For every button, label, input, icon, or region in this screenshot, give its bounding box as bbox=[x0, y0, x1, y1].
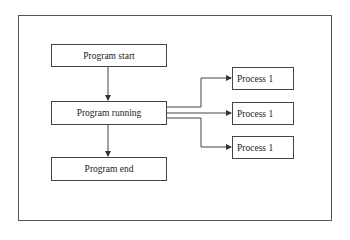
node-label: Program start bbox=[83, 51, 134, 61]
node-process-c: Process 1 bbox=[232, 136, 294, 159]
arrow-running-to-process-c bbox=[166, 118, 231, 147]
node-label: Process 1 bbox=[237, 109, 273, 119]
node-process-b: Process 1 bbox=[232, 102, 294, 125]
arrow-running-to-process-a bbox=[166, 78, 231, 107]
node-program-start: Program start bbox=[51, 44, 167, 67]
node-program-running: Program running bbox=[51, 101, 167, 125]
node-label: Process 1 bbox=[237, 74, 273, 84]
node-label: Program running bbox=[77, 108, 142, 118]
node-label: Program end bbox=[85, 164, 134, 174]
node-program-end: Program end bbox=[51, 157, 167, 181]
node-label: Process 1 bbox=[237, 143, 273, 153]
node-process-a: Process 1 bbox=[232, 67, 294, 90]
